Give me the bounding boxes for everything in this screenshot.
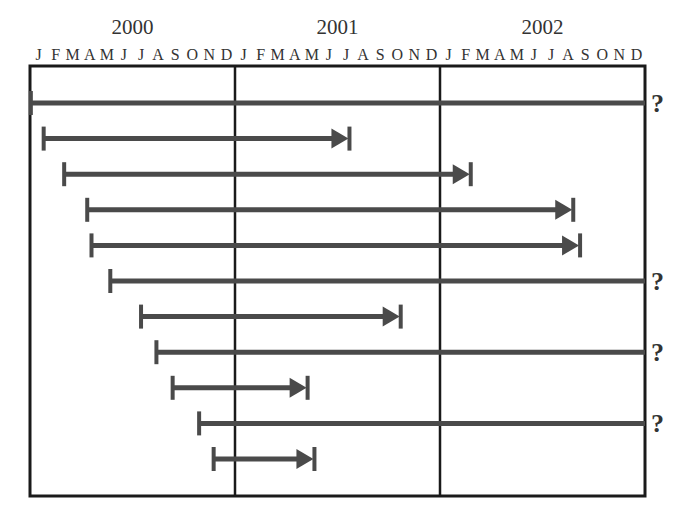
- arrowhead-icon: [331, 129, 348, 149]
- month-label: F: [461, 46, 470, 63]
- month-label: J: [121, 46, 127, 63]
- ongoing-question-mark: ?: [651, 338, 664, 367]
- month-label: N: [614, 46, 626, 63]
- arrowhead-icon: [562, 235, 579, 255]
- month-label: A: [357, 46, 369, 63]
- arrowhead-icon: [296, 449, 313, 469]
- month-label: O: [187, 46, 199, 63]
- month-label: A: [494, 46, 506, 63]
- month-labels: JFMAMJJASONDJFMAMJJASONDJFMAMJJASOND: [35, 46, 642, 63]
- month-label: A: [562, 46, 574, 63]
- timeline-bar: [87, 198, 573, 222]
- month-label: J: [531, 46, 537, 63]
- month-label: F: [256, 46, 265, 63]
- month-label: M: [510, 46, 524, 63]
- month-label: D: [631, 46, 643, 63]
- timeline-bar: [141, 305, 401, 329]
- month-label: M: [271, 46, 285, 63]
- timeline-bars: ????: [31, 89, 664, 471]
- timeline-bar: [214, 447, 315, 471]
- month-label: D: [426, 46, 438, 63]
- timeline-bar: [44, 127, 350, 151]
- ongoing-question-mark: ?: [651, 267, 664, 296]
- month-label: S: [376, 46, 385, 63]
- arrowhead-icon: [555, 200, 572, 220]
- month-label: J: [240, 46, 246, 63]
- month-label: M: [100, 46, 114, 63]
- month-label: J: [326, 46, 332, 63]
- timeline-bar: [64, 162, 471, 186]
- month-label: A: [152, 46, 164, 63]
- month-label: M: [66, 46, 80, 63]
- arrowhead-icon: [290, 378, 307, 398]
- month-label: S: [581, 46, 590, 63]
- month-label: F: [51, 46, 60, 63]
- month-label: A: [289, 46, 301, 63]
- month-label: J: [138, 46, 144, 63]
- timeline-bar: ?: [199, 409, 664, 438]
- month-label: O: [597, 46, 609, 63]
- arrowhead-icon: [383, 307, 400, 327]
- timeline-bar: ?: [31, 89, 664, 118]
- year-labels: 200020012002: [112, 15, 564, 39]
- month-label: S: [171, 46, 180, 63]
- month-label: M: [476, 46, 490, 63]
- month-label: M: [305, 46, 319, 63]
- month-label: J: [445, 46, 451, 63]
- month-label: N: [409, 46, 421, 63]
- ongoing-question-mark: ?: [651, 409, 664, 438]
- month-label: D: [221, 46, 233, 63]
- timeline-bar: ?: [156, 338, 664, 367]
- timeline-bar: [92, 233, 581, 257]
- month-label: J: [548, 46, 554, 63]
- year-label: 2000: [112, 15, 154, 39]
- month-label: O: [392, 46, 404, 63]
- month-label: J: [343, 46, 349, 63]
- month-label: A: [84, 46, 96, 63]
- month-label: N: [204, 46, 216, 63]
- timeline-bar: ?: [110, 267, 664, 296]
- year-label: 2002: [522, 15, 564, 39]
- timeline-bar: [173, 376, 308, 400]
- timeline-chart: 200020012002 JFMAMJJASONDJFMAMJJASONDJFM…: [0, 0, 687, 524]
- arrowhead-icon: [453, 164, 470, 184]
- month-label: J: [35, 46, 41, 63]
- year-label: 2001: [317, 15, 359, 39]
- ongoing-question-mark: ?: [651, 89, 664, 118]
